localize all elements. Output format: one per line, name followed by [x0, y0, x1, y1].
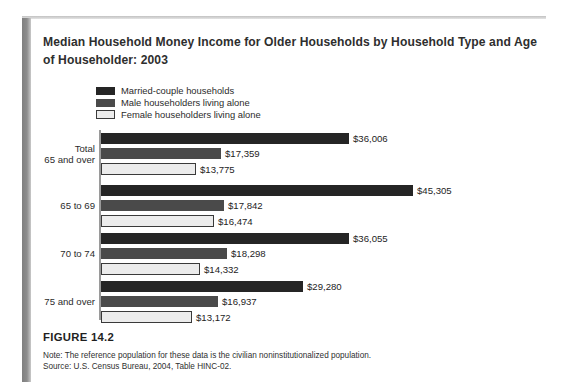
category-label: 75 and over — [3, 296, 95, 307]
figure-note: Note: The reference population for these… — [43, 350, 371, 361]
bar-value-label: $14,332 — [204, 264, 239, 275]
bar-value-label: $13,775 — [200, 164, 235, 175]
bar — [101, 248, 227, 259]
scanned-page: Median Household Money Income for Older … — [0, 0, 569, 382]
bar — [101, 233, 349, 244]
figure-number: FIGURE 14.2 — [43, 331, 114, 343]
category-label: Total 65 and over — [3, 143, 95, 165]
bar — [101, 185, 413, 196]
bar — [101, 163, 196, 175]
bar-value-label: $36,055 — [353, 233, 388, 244]
figure-source: Source: U.S. Census Bureau, 2004, Table … — [43, 361, 231, 372]
bar — [101, 215, 214, 227]
bar — [101, 281, 303, 292]
bar-value-label: $16,474 — [218, 216, 253, 227]
bar-value-label: $17,842 — [228, 200, 263, 211]
bar-value-label: $18,298 — [231, 248, 266, 259]
bar-value-label: $36,006 — [353, 133, 388, 144]
bar — [101, 133, 349, 144]
category-label: 70 to 74 — [3, 248, 95, 259]
bar — [101, 311, 192, 323]
bar-chart-plot: Total 65 and over$36,006$17,359$13,77565… — [0, 0, 569, 382]
bar-value-label: $45,305 — [417, 185, 452, 196]
bar-value-label: $17,359 — [225, 148, 260, 159]
bar — [101, 296, 218, 307]
bar-value-label: $13,172 — [196, 312, 231, 323]
bar — [101, 263, 200, 275]
bar — [101, 148, 221, 159]
category-label: 65 to 69 — [3, 200, 95, 211]
bar-value-label: $29,280 — [307, 281, 342, 292]
bar-value-label: $16,937 — [222, 296, 257, 307]
bar — [101, 200, 224, 211]
